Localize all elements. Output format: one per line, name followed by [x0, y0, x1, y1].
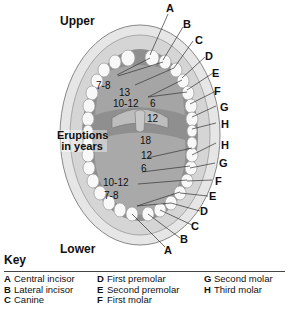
lower-label-h: H [221, 140, 229, 151]
lower-label-a: A [164, 245, 172, 256]
upper-label-a: A [166, 3, 174, 14]
key-title: Key [4, 253, 26, 267]
key-letter: F [97, 295, 107, 306]
key-column-3: GSecond molar HThird molar [204, 274, 273, 295]
key-item-f: FFirst molar [97, 295, 179, 306]
upper-label-f: F [214, 86, 221, 97]
key-letter: C [4, 295, 14, 306]
lower-label-e: E [209, 191, 216, 202]
lower-age-premolars: 10-12 [103, 178, 129, 188]
eruptions-label: Eruptions in years [57, 130, 107, 152]
upper-label-c: C [195, 35, 203, 46]
key-item-h: HThird molar [204, 285, 273, 296]
upper-label-e: E [212, 68, 219, 79]
upper-age-first-molar: 6 [150, 99, 156, 109]
lower-age-incisors: 7-8 [104, 191, 118, 201]
key-name: First molar [107, 294, 152, 305]
upper-label-g: G [220, 102, 229, 113]
mouth-illustration [0, 0, 291, 260]
upper-age-premolars: 10-12 [113, 99, 139, 109]
key-column-2: DFirst premolar ESecond premolar FFirst … [97, 274, 179, 306]
eruptions-label-line2: in years [57, 141, 107, 152]
key-name: Canine [14, 294, 44, 305]
lower-age-second-molar: 12 [141, 151, 152, 161]
key-name: Second premolar [107, 284, 179, 295]
upper-age-second-molar: 12 [147, 114, 158, 124]
upper-label: Upper [60, 16, 95, 27]
upper-age-central-incisor: 7-8 [96, 81, 110, 91]
lower-age-first-molar: 6 [141, 164, 147, 174]
upper-label-h: H [221, 119, 229, 130]
key-divider [4, 271, 285, 272]
key-letter: D [97, 274, 107, 285]
key-letter: H [204, 285, 214, 296]
key-name: Central incisor [14, 273, 75, 284]
key-name: First premolar [107, 273, 166, 284]
key-name: Lateral incisor [14, 284, 73, 295]
upper-age-canine: 13 [119, 88, 130, 98]
upper-label-d: D [205, 51, 213, 62]
lower-age-third-molar: 18 [140, 136, 151, 146]
key-letter: A [4, 274, 14, 285]
lower-label: Lower [60, 244, 95, 255]
lower-label-f: F [215, 176, 222, 187]
lower-label-c: C [191, 221, 199, 232]
upper-label-b: B [183, 19, 191, 30]
key-letter: G [204, 274, 214, 285]
lower-label-b: B [180, 234, 188, 245]
key-name: Second molar [214, 273, 273, 284]
mouth-diagram: Upper Lower Eruptions in years A B C D E… [0, 0, 291, 260]
lower-label-d: D [200, 206, 208, 217]
key-item-c: CCanine [4, 295, 75, 306]
key-column-1: ACentral incisor BLateral incisor CCanin… [4, 274, 75, 306]
lower-label-g: G [219, 158, 228, 169]
key-name: Third molar [214, 284, 262, 295]
